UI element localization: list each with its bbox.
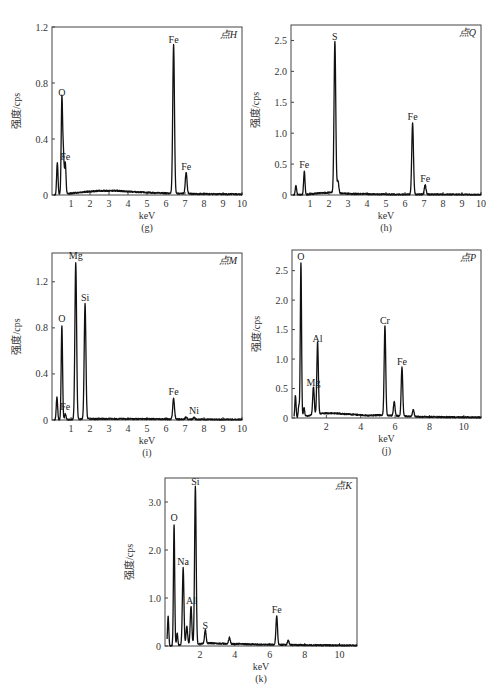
point-label: 点K — [335, 480, 353, 491]
x-axis-label: keV — [253, 661, 270, 672]
peak-label: Cr — [380, 315, 391, 326]
y-tick-label: 1.2 — [36, 22, 49, 33]
x-tick-label: 3 — [107, 198, 112, 209]
x-tick-label: 8 — [202, 423, 207, 434]
y-tick-label: 2.0 — [276, 295, 289, 306]
x-tick-label: 1 — [69, 198, 74, 209]
x-tick-label: 10 — [237, 198, 247, 209]
x-tick-label: 3 — [107, 423, 112, 434]
y-tick-label: 1.5 — [276, 324, 289, 335]
peak-label: S — [332, 31, 338, 42]
x-tick-label: 6 — [164, 198, 169, 209]
x-tick-label: 9 — [221, 198, 226, 209]
y-axis-label: 强度/cps — [10, 93, 22, 129]
x-tick-label: 8 — [427, 421, 432, 432]
y-tick-label: 2.5 — [276, 265, 289, 276]
peak-label: Na — [177, 556, 189, 567]
peak-label: Mg — [307, 377, 321, 388]
x-axis-label: keV — [139, 435, 156, 446]
y-tick-label: 3.0 — [149, 497, 162, 508]
peak-label: Ni — [189, 405, 199, 416]
y-tick-label: 2.0 — [149, 545, 162, 556]
x-tick-label: 10 — [335, 649, 345, 660]
peak-label: Al — [186, 595, 196, 606]
y-tick-label: 2.5 — [275, 35, 288, 46]
x-tick-label: 9 — [460, 198, 465, 209]
x-tick-label: 6 — [403, 198, 408, 209]
chart-panel-h: 00.51.01.52.02.512345678910keV(h)强度/cps点… — [249, 25, 486, 234]
x-tick-label: 10 — [459, 421, 469, 432]
y-tick-label: 0.5 — [276, 383, 289, 394]
peak-label: Si — [81, 292, 90, 303]
y-tick-label: 1.0 — [275, 128, 288, 139]
x-tick-label: 7 — [422, 198, 427, 209]
x-tick-label: 5 — [145, 198, 150, 209]
x-tick-label: 1 — [308, 198, 313, 209]
peak-label: Fe — [60, 151, 71, 162]
peak-label: S — [203, 620, 209, 631]
x-tick-label: 2 — [324, 421, 329, 432]
y-tick-label: 0 — [283, 413, 288, 424]
chart-panel-k: 01.02.03.0246810keV(k)强度/cps点KONaAlSiSFe — [123, 476, 357, 685]
peak-label: Mg — [69, 250, 83, 261]
x-tick-label: 4 — [365, 198, 370, 209]
x-tick-label: 8 — [441, 198, 446, 209]
y-tick-label: 1.2 — [36, 276, 49, 287]
peak-label: Fe — [60, 401, 71, 412]
x-axis-label: keV — [378, 210, 395, 221]
x-tick-label: 2 — [197, 649, 202, 660]
eds-spectra-figure: 00.40.81.212345678910keV(g)强度/cps点HOFeFe… — [0, 0, 498, 694]
x-tick-label: 5 — [384, 198, 389, 209]
y-tick-label: 0.5 — [275, 159, 288, 170]
y-axis-label: 强度/cps — [123, 544, 135, 580]
x-tick-label: 6 — [393, 421, 398, 432]
y-tick-label: 2.0 — [275, 66, 288, 77]
x-tick-label: 4 — [232, 649, 237, 660]
x-tick-label: 6 — [164, 423, 169, 434]
panel-caption: (h) — [380, 222, 392, 234]
y-tick-label: 0.8 — [36, 78, 49, 89]
peak-label: Al — [313, 333, 323, 344]
peak-label: Fe — [169, 386, 180, 397]
peak-label: Fe — [420, 173, 431, 184]
point-label: 点H — [220, 29, 238, 40]
y-axis-label: 强度/cps — [249, 92, 261, 128]
point-label: 点M — [219, 255, 238, 266]
y-tick-label: 0.4 — [36, 134, 49, 145]
point-label: 点Q — [459, 27, 477, 38]
y-tick-label: 0 — [282, 190, 287, 201]
peak-label: Fe — [408, 111, 419, 122]
peak-label: O — [58, 87, 65, 98]
plot-frame — [52, 253, 242, 420]
x-tick-label: 10 — [476, 198, 486, 209]
peak-label: Fe — [169, 34, 180, 45]
chart-panel-j: 00.51.01.52.02.5246810keV(j)强度/cps点POMgA… — [250, 250, 481, 457]
plot-frame — [52, 27, 242, 195]
peak-label: O — [297, 251, 304, 262]
y-axis-label: 强度/cps — [10, 318, 22, 354]
peak-label: O — [58, 313, 65, 324]
y-tick-label: 0 — [43, 190, 48, 201]
spectrum-line — [293, 41, 481, 195]
peak-label: Si — [191, 476, 200, 487]
y-tick-label: 1.0 — [276, 354, 289, 365]
y-tick-label: 0 — [43, 415, 48, 426]
panel-caption: (k) — [255, 673, 267, 685]
y-tick-label: 0.8 — [36, 322, 49, 333]
x-tick-label: 3 — [346, 198, 351, 209]
spectrum-line — [54, 263, 242, 420]
chart-panel-g: 00.40.81.212345678910keV(g)强度/cps点HOFeFe… — [10, 22, 247, 235]
x-tick-label: 4 — [358, 421, 363, 432]
chart-panel-i: 00.40.81.212345678910keV(i)强度/cps点MOFeMg… — [10, 250, 247, 459]
peak-label: Fe — [299, 159, 310, 170]
x-tick-label: 9 — [221, 423, 226, 434]
spectrum-line — [167, 486, 357, 646]
x-tick-label: 7 — [183, 198, 188, 209]
x-tick-label: 2 — [88, 423, 93, 434]
x-tick-label: 2 — [88, 198, 93, 209]
plot-frame — [291, 25, 481, 195]
x-tick-label: 1 — [69, 423, 74, 434]
peak-label: O — [170, 512, 177, 523]
peak-label: Fe — [181, 161, 192, 172]
y-tick-label: 0.4 — [36, 368, 49, 379]
